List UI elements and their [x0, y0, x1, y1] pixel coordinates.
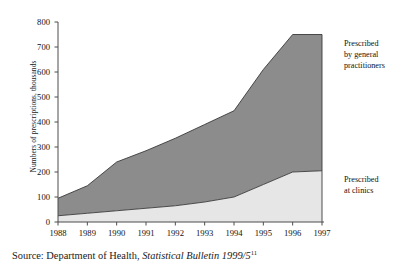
y-tick-label: 700 [20, 42, 50, 52]
legend-label-prescribed-at-clinics: Prescribedat clinics [344, 174, 408, 196]
y-tick-label: 100 [20, 192, 50, 202]
figure-stacked-area-prescriptions: Numbers of prescriptions, thousands 8007… [0, 0, 408, 271]
chart-plot-area: Numbers of prescriptions, thousands 8007… [0, 0, 408, 240]
y-tick-label: 400 [20, 117, 50, 127]
stacked-area-chart-svg [0, 0, 408, 240]
legend-gp-line: by general [344, 49, 408, 60]
source-prefix: Source: Department of Health, [12, 250, 140, 261]
series-layer [58, 35, 322, 223]
x-tick-label: 1997 [305, 228, 339, 238]
legend-gp-line: practitioners [344, 60, 408, 71]
y-tick-label: 200 [20, 167, 50, 177]
y-tick-label: 600 [20, 67, 50, 77]
y-tick-label: 800 [20, 17, 50, 27]
y-tick-label: 0 [20, 217, 50, 227]
legend-gp-line: Prescribed [344, 38, 408, 49]
legend-label-prescribed-by-gp: Prescribedby generalpractitioners [344, 38, 408, 72]
source-note: Source: Department of Health, Statistica… [12, 249, 257, 261]
legend-clinics-line: Prescribed [344, 174, 408, 185]
source-footnote-marker: 11 [251, 249, 257, 256]
source-publication: Statistical Bulletin 1999/5 [142, 250, 251, 261]
y-tick-label: 500 [20, 92, 50, 102]
y-tick-label: 300 [20, 142, 50, 152]
legend-clinics-line: at clinics [344, 185, 408, 196]
